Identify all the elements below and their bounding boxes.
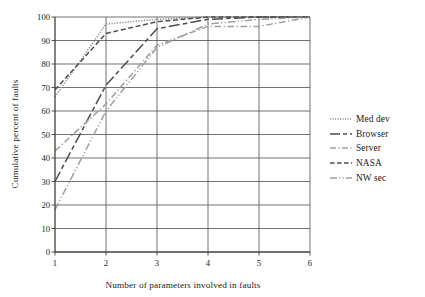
y-tick-label: 50 <box>41 130 50 140</box>
x-tick-label: 5 <box>257 258 261 268</box>
legend-label-med-dev: Med dev <box>356 114 390 124</box>
legend-label-nw-sec: NW sec <box>356 173 386 183</box>
y-tick-label: 40 <box>41 153 50 163</box>
y-tick-label: 80 <box>41 59 50 69</box>
y-tick-label: 60 <box>41 106 50 116</box>
legend-label-nasa: NASA <box>356 158 382 168</box>
legend-item-nw-sec: NW sec <box>330 170 425 185</box>
series-line-nasa <box>55 17 310 90</box>
series-line-server <box>55 17 310 151</box>
legend-swatch-nasa <box>330 158 352 168</box>
figure: 0102030405060708090100123456 Number of p… <box>0 0 425 297</box>
y-tick-label: 70 <box>41 83 50 93</box>
series-line-nw-sec <box>55 17 310 210</box>
y-tick-label: 30 <box>41 177 50 187</box>
legend-item-server: Server <box>330 141 425 156</box>
axis-ticks: 0102030405060708090100123456 <box>37 12 313 268</box>
x-tick-label: 1 <box>53 258 57 268</box>
y-tick-label: 10 <box>41 224 50 234</box>
line-chart: 0102030405060708090100123456 Number of p… <box>0 0 330 297</box>
legend-label-server: Server <box>356 143 381 153</box>
x-tick-label: 3 <box>155 258 159 268</box>
legend-item-med-dev: Med dev <box>330 112 425 127</box>
data-series <box>55 17 310 210</box>
series-line-browser <box>55 17 310 182</box>
y-tick-label: 20 <box>41 200 50 210</box>
legend-swatch-browser <box>330 129 352 139</box>
x-tick-label: 6 <box>308 258 313 268</box>
x-tick-label: 4 <box>206 258 211 268</box>
legend-item-nasa: NASA <box>330 156 425 171</box>
legend-swatch-server <box>330 143 352 153</box>
legend-swatch-nw-sec <box>330 173 352 183</box>
y-tick-label: 0 <box>46 247 50 257</box>
x-tick-label: 2 <box>104 258 108 268</box>
chart-plot-area: 0102030405060708090100123456 Number of p… <box>0 0 330 297</box>
y-axis-label: Cumulative percent of faults <box>10 79 20 188</box>
chart-legend: Med dev Browser Server NASA NW sec <box>330 112 425 185</box>
legend-swatch-med-dev <box>330 114 352 124</box>
legend-item-browser: Browser <box>330 127 425 142</box>
series-line-med-dev <box>55 17 310 97</box>
x-axis-label: Number of parameters involved in faults <box>105 280 260 290</box>
y-tick-label: 90 <box>41 36 50 46</box>
legend-label-browser: Browser <box>356 129 388 139</box>
y-tick-label: 100 <box>37 12 50 22</box>
